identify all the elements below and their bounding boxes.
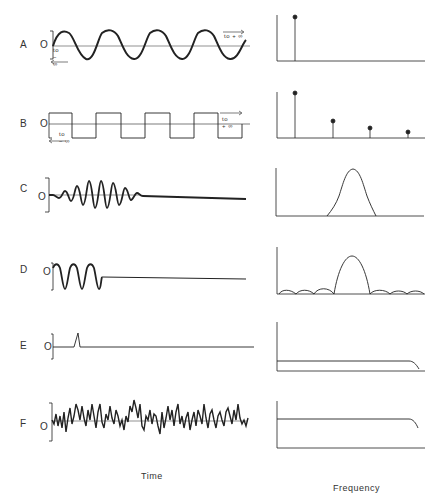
frequency-panel-e [277, 322, 425, 371]
frequency-panel-b [277, 91, 425, 138]
frequency-panel-d [277, 247, 425, 294]
time-panel-d [51, 263, 246, 290]
time-panel-f [49, 400, 248, 441]
time-panel-e [51, 333, 254, 359]
time-panel-a [50, 30, 250, 64]
frequency-panel-f [277, 401, 425, 448]
time-panel-b [49, 111, 250, 143]
time-panel-c [45, 178, 246, 212]
diagram-canvas [0, 0, 439, 503]
frequency-panel-c [276, 168, 424, 216]
frequency-panel-a [277, 15, 425, 61]
